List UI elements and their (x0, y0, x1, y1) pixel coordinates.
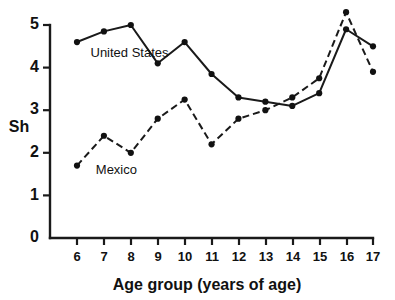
data-point (235, 94, 241, 100)
x-tick-label-16: 16 (340, 249, 354, 264)
mexico-line (77, 12, 373, 165)
y-tick-label-3: 3 (30, 100, 39, 117)
data-point (182, 96, 188, 102)
data-point (101, 28, 107, 34)
data-point (101, 133, 107, 139)
x-tick-label-12: 12 (232, 249, 246, 264)
annotation-mexico: Mexico (96, 162, 137, 177)
y-axis-group: 5 4 3 2 1 0 Sh (9, 15, 50, 245)
x-tick-label-14: 14 (286, 249, 301, 264)
data-point (208, 141, 214, 147)
data-point (74, 162, 80, 168)
data-point (182, 39, 188, 45)
data-point (74, 39, 80, 45)
data-point (343, 9, 349, 15)
data-point (128, 22, 134, 28)
x-tick-label-13: 13 (259, 249, 273, 264)
data-point (370, 69, 376, 75)
data-point (289, 94, 295, 100)
x-tick-label-15: 15 (313, 249, 327, 264)
data-point (208, 71, 214, 77)
data-point (155, 116, 161, 122)
data-point (262, 99, 268, 105)
x-tick-label-6: 6 (73, 249, 80, 264)
annotation-united-states: United States (91, 45, 170, 60)
series-united-states (74, 22, 376, 109)
data-point (128, 150, 134, 156)
y-tick-label-2: 2 (30, 143, 39, 160)
x-tick-label-8: 8 (127, 249, 134, 264)
data-point (289, 103, 295, 109)
data-point (316, 90, 322, 96)
data-point (155, 60, 161, 66)
x-tick-label-9: 9 (154, 249, 161, 264)
x-axis-group: 6 7 8 9 10 11 12 13 14 15 16 17 Age grou… (50, 238, 380, 293)
x-tick-label-10: 10 (178, 249, 192, 264)
y-axis-title: Sh (9, 118, 29, 135)
y-tick-label-1: 1 (30, 186, 39, 203)
data-point (370, 43, 376, 49)
chart-figure: 5 4 3 2 1 0 Sh 6 7 8 9 10 (0, 0, 395, 300)
series-mexico (74, 9, 376, 169)
y-tick-label-0: 0 (30, 228, 39, 245)
x-tick-label-17: 17 (366, 249, 380, 264)
data-point (316, 75, 322, 81)
united-states-line (77, 25, 373, 106)
y-tick-label-4: 4 (30, 58, 39, 75)
data-point (343, 26, 349, 32)
line-chart-canvas: 5 4 3 2 1 0 Sh 6 7 8 9 10 (0, 0, 395, 300)
y-tick-label-5: 5 (30, 15, 39, 32)
x-tick-label-7: 7 (100, 249, 107, 264)
x-tick-label-11: 11 (205, 249, 219, 264)
x-axis-title: Age group (years of age) (113, 276, 301, 293)
data-point (262, 107, 268, 113)
data-point (235, 116, 241, 122)
